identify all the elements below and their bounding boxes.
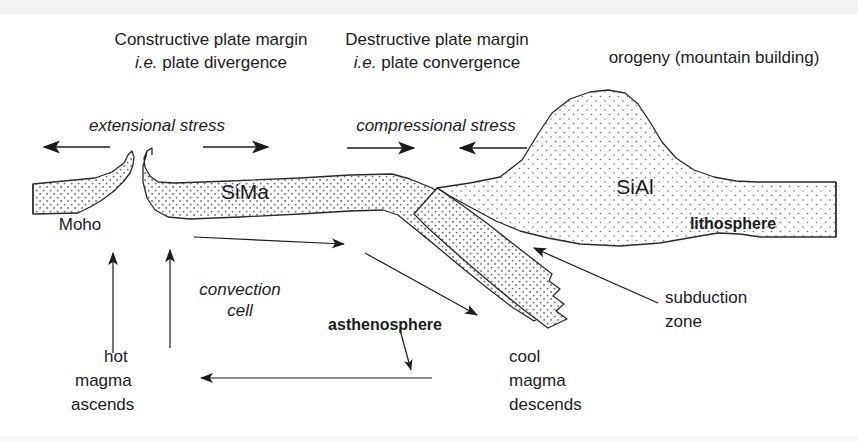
hot-magma-line3: ascends xyxy=(71,395,134,414)
constructive-margin-title: Constructive plate margin xyxy=(115,30,308,49)
continental-mass-sial xyxy=(437,90,836,246)
convection-top-arrow xyxy=(194,237,344,244)
convection-label-line1: convection xyxy=(199,280,280,299)
orogeny-label: orogeny (mountain building) xyxy=(609,48,820,67)
hot-magma-line2: magma xyxy=(75,371,132,390)
left-oceanic-plate xyxy=(33,151,134,214)
moho-label: Moho xyxy=(59,215,102,234)
compressional-stress-label: compressional stress xyxy=(356,116,516,135)
destructive-margin-subtitle: i.e. plate convergence xyxy=(354,53,520,72)
convection-label-line2: cell xyxy=(227,301,254,320)
destructive-ie-text: plate convergence xyxy=(377,53,521,72)
asthenosphere-label: asthenosphere xyxy=(328,316,442,333)
tectonics-illustration: Constructive plate margin i.e. plate div… xyxy=(0,0,858,442)
constructive-margin-subtitle: i.e. plate divergence xyxy=(135,53,287,72)
constructive-ie-prefix: i.e. xyxy=(135,53,158,72)
cool-magma-line2: magma xyxy=(509,371,566,390)
extensional-stress-label: extensional stress xyxy=(89,116,226,135)
destructive-ie-prefix: i.e. xyxy=(354,53,377,72)
constructive-ie-text: plate divergence xyxy=(158,53,287,72)
diagram-canvas: Constructive plate margin i.e. plate div… xyxy=(0,0,858,442)
cool-magma-line3: descends xyxy=(509,395,582,414)
cool-magma-line1: cool xyxy=(509,347,540,366)
sima-label: SiMa xyxy=(221,180,269,203)
lithosphere-label: lithosphere xyxy=(690,215,776,232)
sial-label: SiAl xyxy=(616,175,653,198)
destructive-margin-title: Destructive plate margin xyxy=(345,30,528,49)
subduction-zone-line1: subduction xyxy=(665,288,747,307)
subduction-zone-line2: zone xyxy=(665,312,702,331)
hot-magma-line1: hot xyxy=(104,347,128,366)
magma-descend-arrow-2 xyxy=(400,330,411,370)
